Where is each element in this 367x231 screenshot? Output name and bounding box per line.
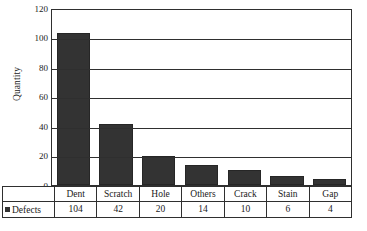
legend-cell-defects: Defects — [3, 202, 55, 218]
table-row-values: Defects 1044220141064 — [3, 202, 352, 218]
table-cell-category: Scratch — [97, 187, 139, 202]
gridline — [52, 128, 351, 129]
pareto-defect-bar-chart: Quantity 020406080100120 DentScratchHole… — [0, 0, 367, 231]
table-cell-value: 14 — [182, 202, 224, 218]
legend-swatch-icon — [5, 207, 10, 212]
y-axis-tick-labels: 020406080100120 — [20, 9, 48, 186]
table-cell-category: Gap — [309, 187, 351, 202]
table-cell-value: 10 — [224, 202, 266, 218]
y-axis-tick-label: 60 — [20, 93, 48, 102]
plot-area — [51, 9, 352, 186]
bar-stain[interactable] — [270, 176, 303, 185]
data-table: DentScratchHoleOthersCrackStainGap Defec… — [2, 186, 352, 218]
legend-label: Defects — [12, 203, 41, 217]
table-cell-value: 20 — [139, 202, 181, 218]
table-cell-value: 4 — [309, 202, 351, 218]
bar-gap[interactable] — [313, 179, 346, 185]
table-row-categories: DentScratchHoleOthersCrackStainGap — [3, 187, 352, 202]
gridline — [52, 69, 351, 70]
table-cell-category: Hole — [139, 187, 181, 202]
gridline — [52, 39, 351, 40]
bar-dent[interactable] — [57, 33, 90, 185]
y-axis-tick-label: 40 — [20, 123, 48, 132]
table-cell-value: 42 — [97, 202, 139, 218]
bar-hole[interactable] — [142, 156, 175, 185]
table-cell-value: 6 — [267, 202, 309, 218]
bar-crack[interactable] — [228, 170, 261, 185]
y-axis-tick-label: 120 — [20, 5, 48, 14]
y-axis-tick-label: 100 — [20, 34, 48, 43]
gridline — [52, 98, 351, 99]
table-cell-category: Stain — [267, 187, 309, 202]
table-cell-category: Crack — [224, 187, 266, 202]
legend-cell-empty — [3, 187, 55, 202]
gridline — [52, 157, 351, 158]
bar-scratch[interactable] — [99, 124, 132, 185]
y-axis-tick-label: 80 — [20, 64, 48, 73]
table-cell-value: 104 — [55, 202, 97, 218]
bar-others[interactable] — [185, 165, 218, 185]
table-cell-category: Dent — [55, 187, 97, 202]
y-axis-tick-label: 20 — [20, 152, 48, 161]
table-cell-category: Others — [182, 187, 224, 202]
